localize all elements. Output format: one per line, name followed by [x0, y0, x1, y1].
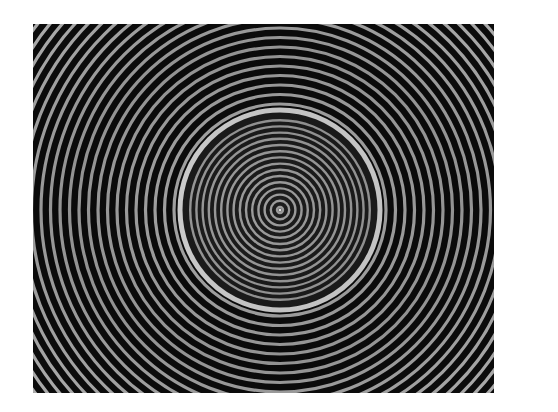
fringe-pattern-image: Concentric circular interference fringe … — [33, 24, 494, 393]
concentric-rings — [33, 24, 494, 393]
